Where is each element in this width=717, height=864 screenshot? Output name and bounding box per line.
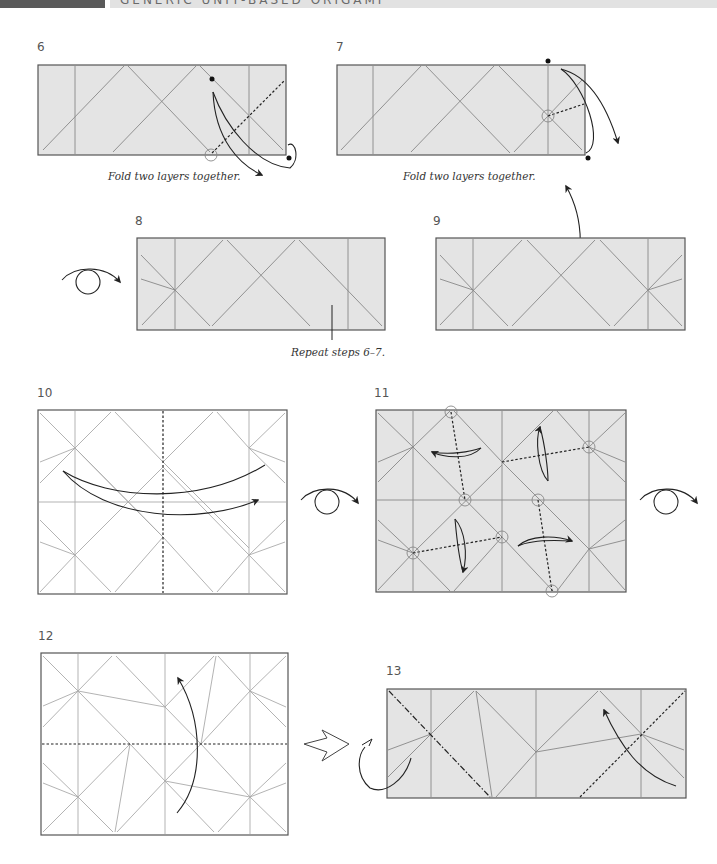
reference-dot-icon (546, 59, 551, 64)
step-11-diagram (376, 406, 626, 597)
turn-over-icon (640, 489, 697, 514)
step-9-diagram (436, 238, 685, 330)
turn-over-icon (62, 269, 120, 294)
hollow-push-arrow-icon (304, 730, 349, 761)
step-10-diagram (38, 410, 287, 594)
step-7-diagram (337, 59, 618, 161)
reference-dot-icon (210, 77, 215, 82)
step-13-diagram (359, 689, 686, 798)
origami-diagrams (0, 0, 717, 864)
turn-over-icon (301, 489, 358, 514)
step-6-diagram (38, 65, 296, 175)
reference-dot-icon (287, 156, 292, 161)
step-8-diagram (137, 238, 385, 340)
step-12-diagram (41, 653, 288, 835)
reference-dot-icon (586, 156, 591, 161)
